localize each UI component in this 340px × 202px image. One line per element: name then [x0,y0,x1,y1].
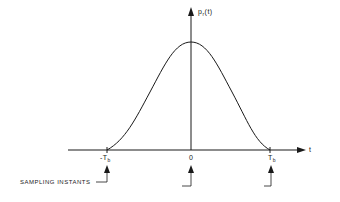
sampling-arrow-left [96,165,110,182]
sampling-instants-label: SAMPLING INSTANTS [20,179,90,185]
x-axis-label: t [309,146,311,153]
up-arrow-icon [268,165,274,173]
tick-label-zero: 0 [189,154,193,161]
sampling-arrow-center [182,165,194,186]
up-arrow-icon [188,165,194,173]
pulse-diagram [0,0,340,202]
up-arrow-icon [104,165,110,173]
y-axis-label: pr(t) [198,8,213,17]
tick-label-neg-tb: -Tb [100,154,111,163]
tick-label-tb: Tb [268,154,276,163]
sampling-arrow-right [264,165,274,186]
pulse-curve [107,42,270,150]
y-axis-arrow-icon [188,7,194,16]
x-axis-arrow-icon [297,147,306,153]
